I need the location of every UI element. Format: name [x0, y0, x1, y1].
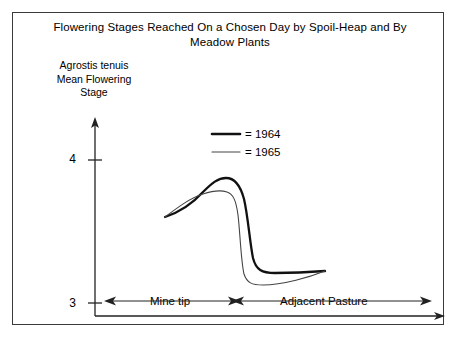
- region-arrow-adjacent-pasture: [232, 297, 432, 306]
- y-axis: [88, 117, 102, 316]
- region-arrow-mine-tip: [104, 297, 240, 306]
- series-line-1964: [165, 178, 325, 273]
- x-axis: [95, 312, 445, 320]
- plot-svg: [0, 0, 459, 340]
- chart-figure: Flowering Stages Reached On a Chosen Day…: [0, 0, 459, 340]
